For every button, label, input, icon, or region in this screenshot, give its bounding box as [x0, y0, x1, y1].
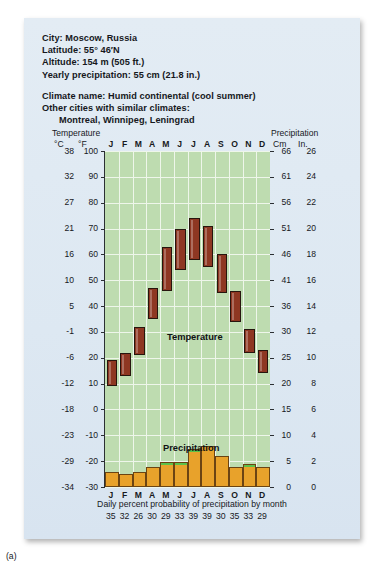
axis-label-fahrenheit: 100 [76, 146, 98, 156]
info-spacer [42, 81, 342, 90]
axis-label-celsius: -12 [52, 378, 74, 388]
gridline-vertical [188, 151, 189, 487]
axis-label-celsius: 27 [52, 197, 74, 207]
axis-label-fahrenheit: 80 [76, 197, 98, 207]
axis-label-inches: 12 [298, 326, 316, 336]
axis-label-centimeters: 61 [273, 171, 291, 181]
figure-label: (a) [6, 551, 17, 561]
gridline-vertical [146, 151, 147, 487]
tick-right [270, 177, 274, 178]
temperature-bar [203, 226, 214, 267]
temperature-bar [175, 229, 186, 270]
precipitation-bar [160, 462, 174, 487]
axis-label-centimeters: 15 [273, 404, 291, 414]
axis-label-inches: 26 [298, 146, 316, 156]
precipitation-bar [256, 467, 270, 487]
gridline-vertical [119, 151, 120, 487]
axis-label-inches: 8 [298, 378, 316, 388]
axis-label-inches: 14 [298, 301, 316, 311]
axis-label-centimeters: 0 [273, 482, 291, 492]
info-climate-name: Climate name: Humid continental (cool su… [42, 90, 342, 102]
axis-label-centimeters: 25 [273, 352, 291, 362]
temperature-bar [189, 218, 200, 259]
axis-label-celsius: 16 [52, 249, 74, 259]
gridline-vertical [243, 151, 244, 487]
axis-label-centimeters: 56 [273, 197, 291, 207]
axis-label-inches: 10 [298, 352, 316, 362]
month-label-top-d-11: D [255, 139, 269, 149]
info-similar-intro: Other cities with similar climates: [42, 102, 342, 114]
temperature-annotation: Temperature [167, 332, 223, 342]
axis-label-fahrenheit: 50 [76, 275, 98, 285]
tick-right [270, 487, 274, 488]
month-label-top-a-7: A [200, 139, 214, 149]
info-similar-cities: Montreal, Winnipeg, Leningrad [42, 114, 342, 126]
axis-label-celsius: -1 [52, 326, 74, 336]
axis-label-celsius: -23 [52, 430, 74, 440]
tick-right [270, 332, 274, 333]
tick-left [101, 384, 105, 385]
precipitation-bar [215, 456, 229, 487]
gridline-vertical [174, 151, 175, 487]
city-info-block: City: Moscow, Russia Latitude: 55° 46′N … [42, 32, 342, 126]
gridline-vertical [215, 151, 216, 487]
axis-label-fahrenheit: 60 [76, 249, 98, 259]
axis-label-celsius: 32 [52, 171, 74, 181]
axis-label-fahrenheit: 40 [76, 301, 98, 311]
month-label-top-a-3: A [145, 139, 159, 149]
tick-left [101, 306, 105, 307]
gridline-vertical [133, 151, 134, 487]
precipitation-bar-tip [244, 465, 256, 467]
tick-right [270, 203, 274, 204]
info-city: City: Moscow, Russia [42, 32, 342, 44]
axis-label-fahrenheit: 10 [76, 378, 98, 388]
tick-right [270, 461, 274, 462]
info-altitude: Altitude: 154 m (505 ft.) [42, 56, 342, 68]
info-latitude: Latitude: 55° 46′N [42, 44, 342, 56]
tick-left [101, 177, 105, 178]
axis-label-inches: 20 [298, 223, 316, 233]
month-label-top-m-2: M [131, 139, 145, 149]
axis-label-celsius: 5 [52, 301, 74, 311]
axis-label-centimeters: 30 [273, 326, 291, 336]
info-yearly-precipitation: Yearly precipitation: 55 cm (21.8 in.) [42, 69, 342, 81]
precipitation-bar [243, 464, 257, 487]
temperature-bar [162, 247, 173, 291]
precipitation-annotation: Precipitation [163, 443, 219, 453]
precipitation-bar-tip [161, 463, 173, 465]
tick-left [101, 461, 105, 462]
tick-left [101, 435, 105, 436]
tick-right [270, 229, 274, 230]
tick-left [101, 409, 105, 410]
axis-label-inches: 16 [298, 275, 316, 285]
axis-label-centimeters: 41 [273, 275, 291, 285]
temperature-bar [134, 327, 145, 355]
precipitation-bar [174, 462, 188, 487]
month-label-top-n-10: N [241, 139, 255, 149]
axis-label-fahrenheit: -10 [76, 430, 98, 440]
precipitation-bar [188, 449, 202, 487]
axis-label-celsius: -29 [52, 456, 74, 466]
temperature-bar [107, 360, 118, 386]
axis-label-centimeters: 20 [273, 378, 291, 388]
temperature-bar [217, 254, 228, 293]
axis-label-centimeters: 36 [273, 301, 291, 311]
axis-label-centimeters: 66 [273, 146, 291, 156]
axis-label-celsius: 21 [52, 223, 74, 233]
tick-left [101, 358, 105, 359]
month-label-top-j-0: J [104, 139, 118, 149]
axis-label-fahrenheit: 0 [76, 404, 98, 414]
tick-right [270, 254, 274, 255]
tick-right [270, 306, 274, 307]
gridline-vertical [256, 151, 257, 487]
tick-left [101, 487, 105, 488]
temperature-bar [148, 288, 159, 319]
axis-label-centimeters: 46 [273, 249, 291, 259]
axis-label-inches: 22 [298, 197, 316, 207]
climate-plot: Temperature Precipitation [104, 151, 270, 488]
gridline-vertical [160, 151, 161, 487]
tick-right [270, 151, 274, 152]
axis-label-celsius: -18 [52, 404, 74, 414]
axis-label-fahrenheit: 70 [76, 223, 98, 233]
axis-label-fahrenheit: 90 [76, 171, 98, 181]
